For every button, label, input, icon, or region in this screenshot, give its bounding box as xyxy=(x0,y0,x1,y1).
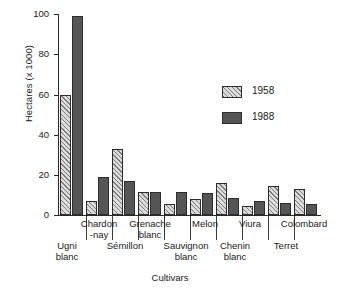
plot-area xyxy=(59,14,321,215)
bar-group xyxy=(190,14,214,215)
y-tick-0 xyxy=(54,215,58,216)
y-tick-20 xyxy=(54,175,58,176)
bar-chart: Hectares (x 1000) 100 80 60 40 20 0 Char… xyxy=(0,0,340,291)
category-label-ugni-blanc: Ugni blanc xyxy=(40,241,94,262)
bar-1988 xyxy=(280,203,291,215)
bar-1988 xyxy=(254,201,265,215)
legend-label: 1988 xyxy=(252,111,274,122)
bar-1988 xyxy=(98,177,109,215)
y-ticklabel-60: 60 xyxy=(19,90,49,100)
category-label-line2: blanc xyxy=(40,252,94,263)
category-label-colombard: Colombard xyxy=(268,219,340,230)
category-label-line1: Terret xyxy=(256,241,316,252)
bar-1958 xyxy=(216,183,227,215)
bar-group xyxy=(164,14,188,215)
legend-swatch-icon xyxy=(222,86,242,98)
y-tick-100 xyxy=(54,14,58,15)
bar-1988 xyxy=(306,204,317,215)
bar-1958 xyxy=(164,204,175,215)
y-ticklabel-80: 80 xyxy=(19,49,49,59)
bar-group xyxy=(86,14,110,215)
bar-1958 xyxy=(60,95,71,215)
bar-1958 xyxy=(294,189,305,215)
y-ticklabel-0: 0 xyxy=(19,210,49,220)
bar-1988 xyxy=(228,198,239,215)
bar-1958 xyxy=(112,149,123,215)
y-ticklabel-20: 20 xyxy=(19,170,49,180)
legend-swatch-icon xyxy=(222,112,242,124)
category-label-line2: blanc xyxy=(204,252,266,263)
y-tick-80 xyxy=(54,54,58,55)
y-ticklabel-100: 100 xyxy=(19,9,49,19)
category-label-line2: blanc xyxy=(111,230,189,241)
bar-1958 xyxy=(242,206,253,215)
bar-1958 xyxy=(138,192,149,215)
bar-1988 xyxy=(72,16,83,215)
bar-group xyxy=(112,14,136,215)
y-ticklabel-40: 40 xyxy=(19,130,49,140)
category-label-line1: Ugni xyxy=(40,241,94,252)
bar-1988 xyxy=(150,192,161,215)
y-axis-label: Hectares (x 1000) xyxy=(23,4,34,164)
bar-group xyxy=(294,14,318,215)
bar-1958 xyxy=(268,186,279,215)
bar-group xyxy=(138,14,162,215)
bar-1958 xyxy=(190,199,201,215)
bar-1988 xyxy=(176,192,187,215)
bar-1988 xyxy=(124,181,135,215)
legend-label: 1958 xyxy=(252,85,274,96)
y-tick-40 xyxy=(54,135,58,136)
category-label-line1: Colombard xyxy=(268,219,340,230)
bar-group xyxy=(60,14,84,215)
bar-1958 xyxy=(86,201,97,215)
y-tick-60 xyxy=(54,95,58,96)
x-axis-label: Cultivars xyxy=(0,272,340,283)
category-label-terret: Terret xyxy=(256,241,316,252)
bar-1988 xyxy=(202,193,213,215)
